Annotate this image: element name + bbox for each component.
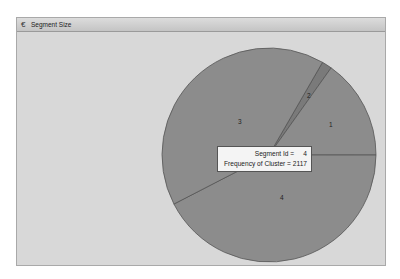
tooltip-frequency-label: Frequency of Cluster = xyxy=(224,160,291,167)
title-bar[interactable]: € Segment Size xyxy=(17,18,385,32)
tooltip-segment-label: Segment Id = xyxy=(255,150,294,157)
data-tooltip: Segment Id = 4 Frequency of Cluster = 21… xyxy=(217,146,312,172)
tooltip-frequency-value: 2117 xyxy=(293,160,307,167)
pie-chart-area: 3 1 2 4 xyxy=(17,32,385,265)
slice-label-1: 1 xyxy=(329,121,333,128)
tooltip-segment-value: 4 xyxy=(303,150,307,157)
pie-chart xyxy=(17,32,387,267)
slice-label-3: 3 xyxy=(238,118,242,125)
app-icon: € xyxy=(21,21,27,28)
tooltip-frequency-row: Frequency of Cluster = 2117 xyxy=(220,159,307,169)
slice-label-4: 4 xyxy=(280,194,284,201)
window-title: Segment Size xyxy=(31,21,71,28)
segment-size-window: € Segment Size 3 1 2 4 xyxy=(16,17,386,266)
slice-label-2: 2 xyxy=(307,92,311,99)
tooltip-segment-row: Segment Id = 4 xyxy=(220,149,307,159)
